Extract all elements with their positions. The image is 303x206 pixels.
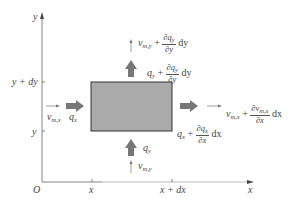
- y-tick-label: y: [32, 127, 36, 137]
- y-axis-label: y: [33, 12, 37, 22]
- top-outflow-v-expression: vm,y + ∂qy∂y dy: [138, 33, 188, 54]
- y-axis-arrowhead: [40, 12, 44, 19]
- right-outflow-q-expression: qx + ∂qx∂x dx: [177, 124, 221, 145]
- left-inflow-v-label: vm,x: [47, 112, 61, 125]
- top-fat-arrow: [125, 60, 137, 77]
- right-outflow-v-expression: vm,x + ∂vm,x∂x dx: [226, 104, 282, 125]
- left-inflow-q-label: qx: [69, 112, 77, 125]
- bottom-inflow-v-label: vm,y: [138, 161, 152, 174]
- bottom-fat-arrow: [125, 139, 137, 156]
- x-plus-dx-tick-label: x + dx: [160, 185, 186, 195]
- top-outflow-q-expression: qy + ∂qy∂y dy: [147, 63, 191, 84]
- y-plus-dy-tick-label: y + dy: [12, 77, 38, 87]
- right-fat-arrow: [180, 100, 198, 112]
- x-axis-label: x: [248, 185, 252, 195]
- control-volume-element: [91, 82, 172, 131]
- origin-label: O: [33, 185, 40, 195]
- x-tick-label: x: [89, 185, 93, 195]
- bottom-inflow-q-label: qy: [143, 143, 151, 156]
